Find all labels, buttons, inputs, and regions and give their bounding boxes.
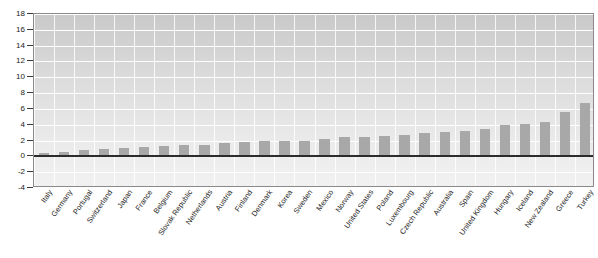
x-tick-label: Japan bbox=[115, 188, 134, 210]
x-tick-label: Korea bbox=[276, 188, 295, 210]
bar-series bbox=[34, 14, 593, 186]
x-tick-text: Italy bbox=[39, 188, 54, 204]
y-tick-label: 8 bbox=[21, 88, 25, 97]
x-tick-label: Italy bbox=[39, 188, 54, 204]
bar bbox=[440, 132, 450, 157]
x-tick-text: Japan bbox=[115, 188, 134, 210]
x-tick-text: Greece bbox=[554, 188, 575, 213]
y-tick-label: 16 bbox=[16, 24, 25, 33]
bar bbox=[259, 141, 269, 156]
x-axis-labels: ItalyGermanyPortugalSwitzerlandJapanFran… bbox=[33, 188, 594, 258]
x-tick-text: Turkey bbox=[575, 188, 595, 212]
bar bbox=[419, 133, 429, 156]
bar-chart: -4-2024681012141618 ItalyGermanyPortugal… bbox=[0, 0, 598, 258]
y-tick-label: -4 bbox=[18, 183, 25, 192]
x-tick-text: Korea bbox=[276, 188, 295, 210]
x-tick-text: Mexico bbox=[314, 188, 335, 213]
x-tick-text: Spain bbox=[457, 188, 475, 209]
bar bbox=[319, 139, 329, 156]
x-tick-label: Sweden bbox=[292, 188, 315, 215]
bar bbox=[279, 141, 289, 157]
y-tick-label: 12 bbox=[16, 56, 25, 65]
bar bbox=[219, 143, 229, 156]
bar bbox=[239, 142, 249, 156]
bar bbox=[460, 131, 470, 156]
bar bbox=[299, 141, 309, 157]
bar bbox=[540, 122, 550, 157]
bar bbox=[500, 125, 510, 157]
bar bbox=[520, 124, 530, 156]
x-tick-label: Austria bbox=[214, 188, 235, 212]
bar bbox=[359, 137, 369, 157]
y-tick-label: 18 bbox=[16, 9, 25, 18]
bar bbox=[399, 135, 409, 156]
bar bbox=[560, 112, 570, 156]
bar bbox=[379, 136, 389, 157]
bar bbox=[480, 129, 490, 156]
x-tick-label: Mexico bbox=[314, 188, 335, 213]
x-tick-label: Turkey bbox=[575, 188, 595, 212]
bar bbox=[580, 103, 590, 157]
y-axis: -4-2024681012141618 bbox=[0, 0, 33, 200]
bar bbox=[339, 137, 349, 156]
x-tick-text: Austria bbox=[214, 188, 235, 212]
plot-area bbox=[33, 13, 594, 187]
x-tick-label: Spain bbox=[457, 188, 475, 209]
y-tick-label: 2 bbox=[21, 135, 25, 144]
y-tick-label: 4 bbox=[21, 119, 25, 128]
zero-baseline bbox=[34, 155, 593, 157]
x-tick-text: Sweden bbox=[292, 188, 315, 215]
y-tick-label: 10 bbox=[16, 72, 25, 81]
y-tick-label: -2 bbox=[18, 167, 25, 176]
y-tick-label: 0 bbox=[21, 151, 25, 160]
x-tick-label: Greece bbox=[554, 188, 575, 213]
y-tick-label: 6 bbox=[21, 103, 25, 112]
y-tick-label: 14 bbox=[16, 40, 25, 49]
